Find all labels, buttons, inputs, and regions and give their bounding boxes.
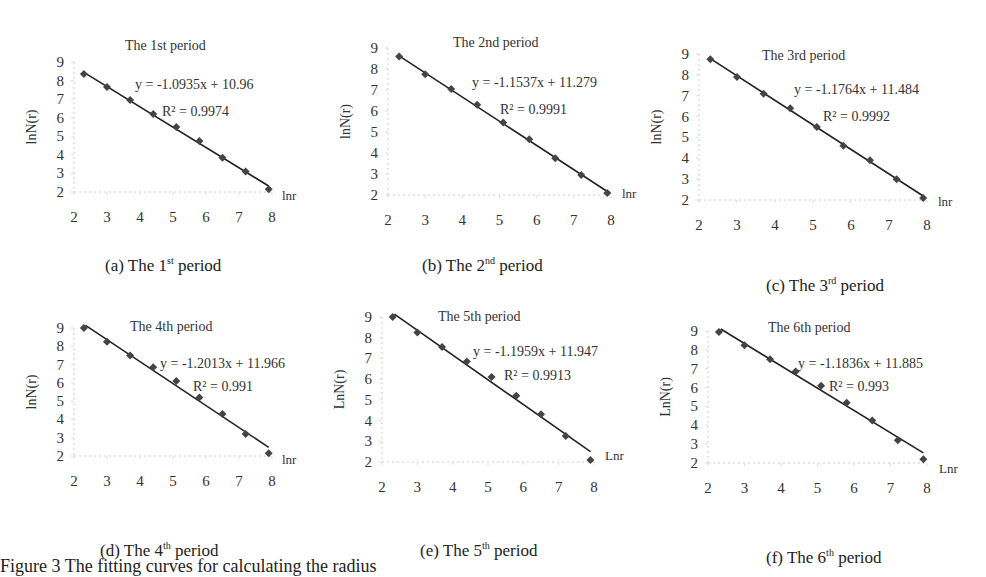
x-tick-label: 5 [496,212,504,228]
x-tick-label: 5 [484,479,492,495]
chart-title: The 4th period [130,319,212,334]
chart-svg: 234567892345678lnN(r)lnrThe 4th periody … [0,290,330,574]
y-axis-label: LnN(r) [658,377,674,417]
chart-panel-b: 234567892345678lnN(r)lnrThe 2nd periody … [330,0,660,290]
x-axis-label: lnr [622,186,637,201]
y-tick-label: 7 [682,88,690,104]
x-axis-label: lnr [282,188,297,203]
y-tick-label: 2 [57,184,65,200]
x-axis-label: lnr [938,194,953,209]
x-tick-label: 3 [103,209,111,225]
chart-title: The 6th period [768,320,850,335]
y-tick-label: 4 [691,417,699,433]
data-point [463,358,471,366]
x-tick-label: 3 [741,480,749,496]
r-squared-label: R² = 0.9992 [823,109,890,124]
x-tick-label: 7 [235,209,243,225]
data-point [195,137,203,145]
x-tick-label: 3 [421,212,429,228]
x-tick-label: 2 [384,212,392,228]
caption-text: (a) The 1 [105,256,167,275]
caption-text: (f) The 6 [766,548,826,567]
caption-text: period [495,256,543,275]
x-tick-label: 8 [268,473,276,489]
y-tick-label: 7 [57,357,65,373]
y-tick-label: 9 [682,46,690,62]
y-tick-label: 9 [365,309,373,325]
y-tick-label: 9 [691,323,699,339]
data-point [766,355,774,363]
data-point [195,393,203,401]
x-tick-label: 4 [771,217,779,233]
r-squared-label: R² = 0.991 [193,379,253,394]
data-point [586,456,594,464]
y-tick-label: 4 [57,411,65,427]
figure-caption: Figure 3 The fitting curves for calculat… [0,556,377,577]
chart-panel-d: 234567892345678lnN(r)lnrThe 4th periody … [0,290,330,574]
caption-text: (b) The 2 [422,256,485,275]
x-tick-label: 3 [733,217,741,233]
y-tick-label: 7 [691,361,699,377]
y-tick-label: 5 [57,128,65,144]
caption-ordinal: th [482,540,490,551]
x-tick-label: 7 [885,217,893,233]
x-tick-label: 7 [235,473,243,489]
data-point [242,430,250,438]
x-tick-label: 2 [704,480,712,496]
data-point [172,123,180,131]
caption-ordinal: th [826,547,834,558]
caption-text: period [174,256,222,275]
y-tick-label: 5 [691,398,699,414]
x-tick-label: 6 [850,480,858,496]
x-tick-label: 7 [555,479,563,495]
x-tick-label: 8 [923,217,931,233]
x-tick-label: 2 [70,209,78,225]
y-tick-label: 3 [371,166,379,182]
x-tick-label: 3 [414,479,422,495]
y-tick-label: 8 [371,61,379,77]
x-tick-label: 5 [809,217,817,233]
x-tick-label: 2 [70,473,78,489]
y-axis-label: lnN(r) [24,109,40,144]
subfigure-caption: (b) The 2nd period [422,255,543,276]
y-tick-label: 9 [57,54,65,70]
chart-svg: 234567892345678LnN(r)LnrThe 6th periody … [656,290,986,574]
x-tick-label: 6 [520,479,528,495]
chart-svg: 234567892345678lnN(r)lnrThe 3rd periody … [656,0,986,290]
trendline-equation: y = -1.1537x + 11.279 [472,75,597,90]
data-point [537,410,545,418]
y-tick-label: 6 [57,375,65,391]
y-tick-label: 7 [57,91,65,107]
x-tick-label: 8 [590,479,598,495]
y-tick-label: 2 [365,454,373,470]
y-tick-label: 9 [371,40,379,56]
y-tick-label: 8 [691,342,699,358]
y-tick-label: 2 [691,455,699,471]
y-tick-label: 3 [682,171,690,187]
y-tick-label: 5 [365,392,373,408]
data-point [103,338,111,346]
x-tick-label: 6 [847,217,855,233]
trendline [721,329,924,453]
x-tick-label: 8 [268,209,276,225]
x-tick-label: 8 [923,480,931,496]
x-axis-label: Lnr [939,461,958,476]
y-tick-label: 9 [57,320,65,336]
y-tick-label: 5 [682,129,690,145]
y-tick-label: 2 [371,187,379,203]
data-point [706,55,714,63]
data-point [219,410,227,418]
y-tick-label: 3 [691,436,699,452]
y-tick-label: 3 [57,430,65,446]
x-tick-label: 7 [887,480,895,496]
r-squared-label: R² = 0.9913 [504,368,571,383]
subfigure-caption: (e) The 5th period [420,540,537,561]
x-axis-label: Lnr [605,448,624,463]
chart-svg: 234567892345678LnN(r)LnrThe 5th periody … [330,290,660,574]
trendline-equation: y = -1.2013x + 11.966 [160,356,285,371]
y-axis-label: LnN(r) [332,369,348,409]
y-tick-label: 4 [682,150,690,166]
data-point [219,154,227,162]
data-point [894,436,902,444]
subfigure-caption: (a) The 1st period [105,255,221,276]
